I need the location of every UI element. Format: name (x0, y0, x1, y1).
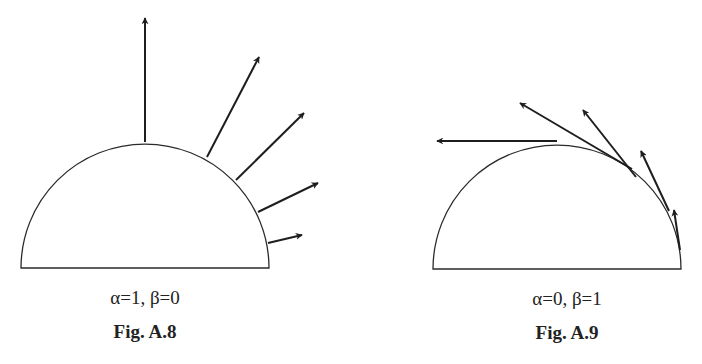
semicircle-body (433, 145, 681, 269)
arrow (520, 103, 632, 169)
figure-a9-label: Fig. A.9 (482, 322, 652, 344)
figure-label-text: Fig. A.8 (114, 321, 177, 342)
tangent-arrows (437, 103, 680, 250)
figure-a8-diagram (21, 18, 318, 268)
figure-a8-params: α=1, β=0 (60, 287, 230, 309)
params-text: α=1, β=0 (110, 287, 180, 308)
arrow (236, 113, 304, 180)
semicircle-body (21, 144, 269, 268)
figure-a9-params: α=0, β=1 (482, 288, 652, 310)
figure-a9-diagram (433, 103, 681, 269)
params-text: α=0, β=1 (532, 288, 602, 309)
figure-label-text: Fig. A.9 (536, 322, 599, 343)
arrow (583, 110, 636, 177)
figure-a8-label: Fig. A.8 (60, 321, 230, 343)
arrow (258, 183, 318, 212)
arrow (207, 57, 259, 157)
normal-arrows (145, 18, 318, 243)
arrow (268, 235, 302, 243)
